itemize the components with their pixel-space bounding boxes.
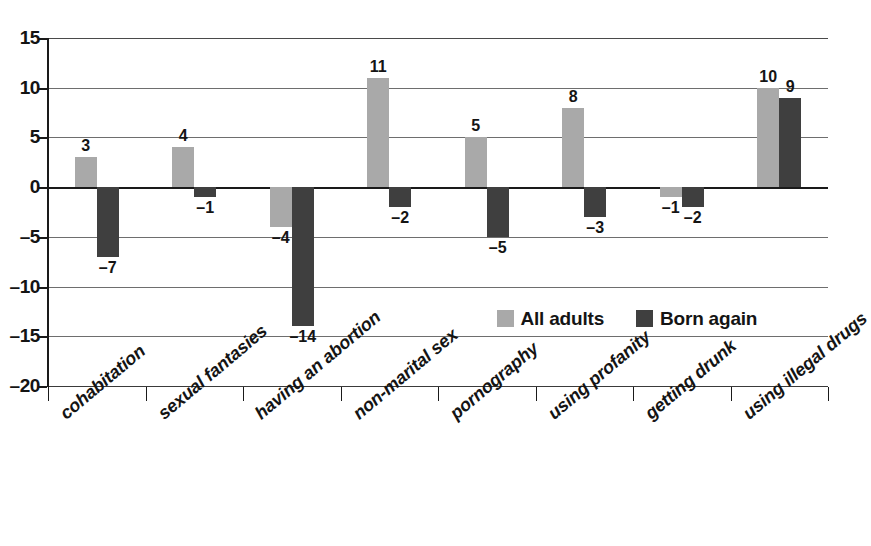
bar-value-label: 8 — [549, 89, 597, 105]
bar-born-again-pornography — [487, 187, 509, 237]
bar-value-label: –2 — [669, 210, 717, 226]
bar-all-adults-cohabitation — [75, 157, 97, 187]
x-axis-tick-8 — [828, 387, 829, 401]
gridline--10 — [48, 287, 828, 288]
bar-all-adults-sexual-fantasies — [172, 147, 194, 187]
bar-born-again-using-illegal-drugs — [779, 98, 801, 187]
bar-value-label: –3 — [571, 220, 619, 236]
gridline-0 — [48, 187, 828, 189]
legend-entry-born-again[interactable]: Born again — [636, 309, 757, 328]
y-axis-label: –10 — [0, 277, 40, 296]
x-axis-tick-2 — [243, 387, 244, 401]
bar-born-again-using-profanity — [584, 187, 606, 217]
bar-all-adults-using-profanity — [562, 108, 584, 188]
x-axis-tick-5 — [536, 387, 537, 401]
gridline-10 — [48, 88, 828, 89]
x-axis-tick-4 — [438, 387, 439, 401]
bar-value-label: –14 — [279, 329, 327, 345]
bar-value-label: –7 — [84, 260, 132, 276]
y-axis-label: 5 — [0, 127, 40, 146]
bar-value-label: 9 — [766, 79, 814, 95]
bar-born-again-having-an-abortion — [292, 187, 314, 326]
chart-legend: All adultsBorn again — [497, 309, 780, 328]
y-axis-label: –5 — [0, 227, 40, 246]
legend-entry-all-adults[interactable]: All adults — [497, 309, 605, 328]
bar-value-label: 5 — [452, 118, 500, 134]
legend-swatch-icon — [497, 310, 514, 327]
legend-swatch-icon — [636, 310, 653, 327]
bar-born-again-cohabitation — [97, 187, 119, 257]
bar-all-adults-having-an-abortion — [270, 187, 292, 227]
x-axis-tick-0 — [48, 387, 49, 401]
bar-value-label: 4 — [159, 128, 207, 144]
bar-value-label: 3 — [62, 138, 110, 154]
bar-all-adults-pornography — [465, 137, 487, 187]
x-axis-tick-1 — [146, 387, 147, 401]
x-axis-tick-7 — [731, 387, 732, 401]
bar-born-again-sexual-fantasies — [194, 187, 216, 197]
y-axis-label: 0 — [0, 177, 40, 196]
legend-label: All adults — [521, 309, 605, 328]
y-axis-spine — [47, 38, 49, 387]
x-axis-tick-6 — [633, 387, 634, 401]
bar-all-adults-getting-drunk — [660, 187, 682, 197]
y-axis-label: –15 — [0, 326, 40, 345]
bar-value-label: 11 — [354, 59, 402, 75]
gridline-15 — [48, 38, 828, 39]
bar-value-label: –2 — [376, 210, 424, 226]
y-axis-label: –20 — [0, 376, 40, 395]
y-axis-label: 10 — [0, 78, 40, 97]
bar-all-adults-using-illegal-drugs — [757, 88, 779, 187]
bar-value-label: –5 — [474, 240, 522, 256]
gridline--5 — [48, 237, 828, 238]
legend-label: Born again — [660, 309, 757, 328]
bar-born-again-getting-drunk — [682, 187, 704, 207]
bar-all-adults-non-marital-sex — [367, 78, 389, 187]
bar-born-again-non-marital-sex — [389, 187, 411, 207]
y-axis-label: 15 — [0, 28, 40, 47]
bar-value-label: –1 — [181, 200, 229, 216]
x-axis-tick-3 — [341, 387, 342, 401]
